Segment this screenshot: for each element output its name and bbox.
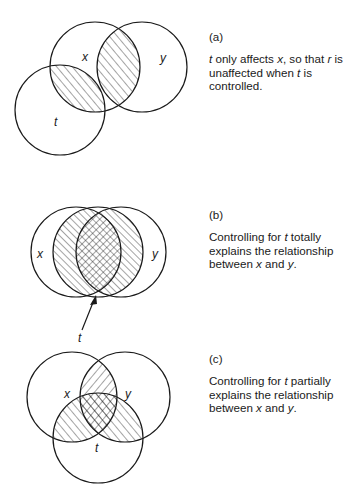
caption-text: Controlling for: [209, 374, 284, 387]
label-y: y: [159, 51, 167, 65]
caption-text: .: [293, 401, 296, 414]
label-t: t: [78, 331, 82, 345]
caption-text: Controlling for: [209, 230, 284, 243]
label-x: x: [81, 50, 89, 64]
panel-c-diagram: x y t: [27, 352, 170, 483]
panel-a-label: (a): [209, 30, 351, 43]
panel-c-label: (c): [209, 352, 351, 365]
arrow-to-t: [82, 295, 97, 330]
caption-text: and: [262, 257, 288, 270]
caption-text: .: [293, 257, 296, 270]
panel-b-diagram: x y t: [31, 207, 166, 345]
label-x: x: [36, 247, 44, 261]
label-y: y: [151, 247, 159, 261]
label-t: t: [54, 115, 58, 129]
caption-text: and: [262, 401, 288, 414]
panel-a-caption: t only affects x, so that r is unaffecte…: [209, 52, 351, 92]
panel-c-caption: Controlling for t partially explains the…: [209, 374, 351, 414]
label-x: x: [63, 387, 71, 401]
label-y: y: [124, 387, 132, 401]
caption-text: , so that: [283, 52, 327, 65]
panel-b-caption: Controlling for t totally explains the r…: [209, 230, 351, 270]
panel-b-text: (b) Controlling for t totally explains t…: [209, 208, 351, 271]
panel-a-diagram: x y t: [15, 22, 187, 155]
panel-b-label: (b): [209, 208, 351, 221]
label-t: t: [95, 441, 99, 455]
caption-text: only affects: [212, 52, 277, 65]
panel-c-text: (c) Controlling for t partially explains…: [209, 352, 351, 415]
panel-a-text: (a) t only affects x, so that r is unaff…: [209, 30, 351, 93]
